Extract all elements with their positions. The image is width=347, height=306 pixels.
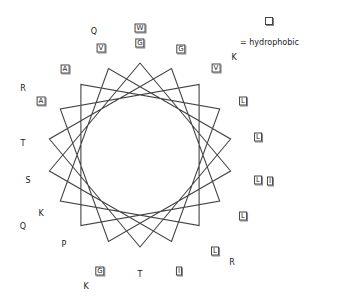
residue-w-hydrophobic: W	[135, 24, 146, 33]
residue-q: Q	[20, 223, 26, 231]
legend-label: = hydrophobic	[240, 38, 299, 47]
residue-v-hydrophobic: V	[97, 44, 106, 53]
residue-l-hydrophobic: L	[239, 97, 247, 106]
residue-l-hydrophobic: L	[239, 212, 247, 221]
residue-i-hydrophobic: I	[176, 267, 182, 276]
residue-q: Q	[91, 28, 97, 36]
residue-s: S	[25, 177, 30, 185]
residue-t: T	[21, 140, 26, 148]
legend-hydrophobic-box-icon	[265, 17, 273, 25]
residue-k: K	[83, 283, 88, 291]
residue-k: K	[231, 54, 236, 62]
residue-a-hydrophobic: A	[37, 97, 46, 106]
residue-l-hydrophobic: L	[254, 133, 262, 142]
residue-r: R	[20, 85, 26, 93]
star-lines	[49, 63, 230, 247]
residue-i-hydrophobic: I	[267, 177, 273, 186]
residue-p: P	[62, 241, 67, 249]
residue-a-hydrophobic: A	[61, 65, 70, 74]
residue-v-hydrophobic: V	[212, 64, 221, 73]
residue-k: K	[38, 210, 43, 218]
residue-g-hydrophobic: G	[176, 45, 185, 54]
residue-t: T	[138, 271, 143, 279]
residue-g-hydrophobic: G	[135, 39, 144, 48]
residue-g-hydrophobic: G	[95, 267, 104, 276]
residue-l-hydrophobic: L	[254, 176, 262, 185]
residue-r: R	[229, 259, 235, 267]
residue-l-hydrophobic: L	[211, 247, 219, 256]
